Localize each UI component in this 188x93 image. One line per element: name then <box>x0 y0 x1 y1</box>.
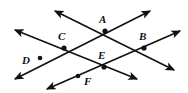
geometry-canvas <box>0 0 188 93</box>
geometry-diagram: A B C D E F <box>0 0 188 93</box>
point-label-B: B <box>139 31 146 42</box>
point-A <box>102 28 107 33</box>
point-F <box>76 74 81 79</box>
point-B <box>141 45 146 50</box>
point-label-D: D <box>22 55 30 66</box>
point-label-C: C <box>58 31 65 42</box>
line-through-A-B <box>55 11 174 70</box>
point-label-A: A <box>99 14 106 25</box>
point-C <box>61 45 66 50</box>
point-D <box>38 56 43 61</box>
line-through-C-E <box>15 30 137 79</box>
point-label-E: E <box>98 50 105 61</box>
point-E <box>101 64 106 69</box>
line-through-D-C-A <box>15 11 150 79</box>
point-label-F: F <box>84 76 91 87</box>
